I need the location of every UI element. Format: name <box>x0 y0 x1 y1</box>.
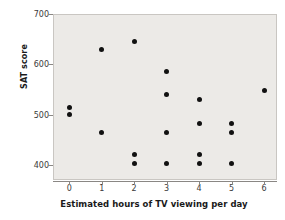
data-point <box>132 39 137 44</box>
data-point <box>197 161 202 166</box>
y-tick-label: 700 <box>23 10 49 19</box>
data-point <box>197 121 202 126</box>
x-tick-mark <box>199 181 200 185</box>
data-point <box>197 152 202 157</box>
y-tick-label: 400 <box>23 160 49 169</box>
x-tick-mark <box>167 181 168 185</box>
x-tick-mark <box>264 181 265 185</box>
data-point <box>132 161 137 166</box>
scatter-plot-figure: SAT score 7006005004000123456 Estimated … <box>0 0 285 220</box>
y-tick-mark <box>48 165 53 166</box>
x-tick-label: 5 <box>222 184 242 193</box>
data-point <box>229 161 234 166</box>
x-tick-label: 6 <box>254 184 274 193</box>
data-point <box>229 130 234 135</box>
y-tick-mark <box>48 64 53 65</box>
x-tick-label: 1 <box>92 184 112 193</box>
y-tick-mark <box>48 115 53 116</box>
x-tick-label: 3 <box>157 184 177 193</box>
y-tick-mark <box>48 14 53 15</box>
x-axis-title: Estimated hours of TV viewing per day <box>34 199 274 209</box>
y-tick-label: 600 <box>23 60 49 69</box>
x-tick-label: 2 <box>124 184 144 193</box>
x-tick-mark <box>69 181 70 185</box>
x-tick-mark <box>134 181 135 185</box>
data-point <box>67 112 72 117</box>
data-point <box>99 130 104 135</box>
x-tick-mark <box>102 181 103 185</box>
x-tick-label: 0 <box>59 184 79 193</box>
data-point <box>99 47 104 52</box>
data-point <box>164 161 169 166</box>
x-tick-label: 4 <box>189 184 209 193</box>
plot-area <box>53 14 277 180</box>
data-point <box>67 105 72 110</box>
x-tick-mark <box>232 181 233 185</box>
data-point <box>164 130 169 135</box>
data-point <box>197 97 202 102</box>
y-tick-label: 500 <box>23 110 49 119</box>
x-axis-line <box>53 181 277 182</box>
